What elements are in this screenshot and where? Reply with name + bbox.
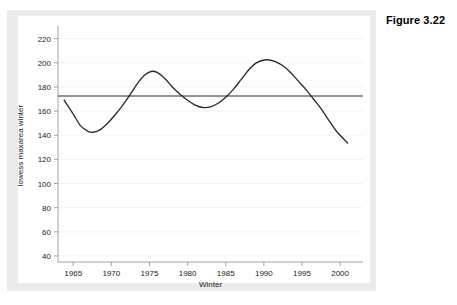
x-axis-tick-label: 2000 [331, 269, 349, 278]
y-axis-tick-label: 140 [38, 131, 52, 140]
figure-label: Figure 3.22 [386, 14, 445, 26]
x-axis-tick-label: 1965 [64, 269, 82, 278]
x-axis-tick-label: 1970 [102, 269, 120, 278]
chart-canvas: 4060801001201401601802002201965197019751… [7, 10, 376, 291]
x-axis-tick-label: 1995 [293, 269, 311, 278]
y-axis-tick-label: 100 [38, 180, 52, 189]
x-axis-title: Winter [199, 280, 222, 289]
data-series-line [64, 60, 348, 143]
y-axis-tick-label: 80 [42, 204, 51, 213]
x-axis-tick-label: 1980 [179, 269, 197, 278]
y-axis-tick-label: 40 [42, 252, 51, 261]
y-axis-tick-label: 180 [38, 83, 52, 92]
y-axis-tick-label: 60 [42, 228, 51, 237]
y-axis-tick-label: 120 [38, 155, 52, 164]
y-axis-tick-label: 200 [38, 59, 52, 68]
figure-box: 4060801001201401601802002201965197019751… [7, 10, 376, 291]
y-axis-tick-label: 220 [38, 35, 52, 44]
x-axis-tick-label: 1985 [217, 269, 235, 278]
y-axis-title: lowess maxarea winter [16, 104, 25, 186]
y-axis-tick-label: 160 [38, 107, 52, 116]
x-axis-tick-label: 1990 [255, 269, 273, 278]
x-axis-tick-label: 1975 [141, 269, 159, 278]
top-clipped-text-remnant: ................. [36, 0, 206, 4]
